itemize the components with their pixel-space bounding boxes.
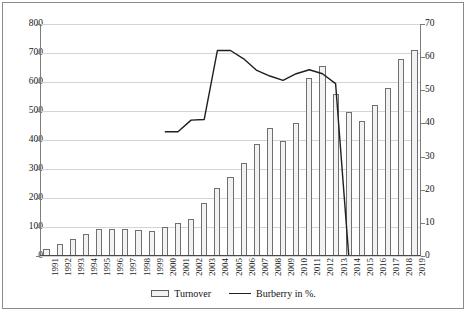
x-tick-label: 2002 <box>195 258 204 276</box>
legend-item-burberry: Burberry in %. <box>229 288 316 299</box>
x-tick-label: 2011 <box>313 258 322 276</box>
chart-legend: Turnover Burberry in %. <box>0 288 467 299</box>
x-axis-labels: 1991199219931994199519961997199819992000… <box>40 258 421 292</box>
axis-line-bottom <box>40 255 421 256</box>
y-tick-right: 50 <box>425 85 459 95</box>
x-tick-label: 1992 <box>64 258 73 276</box>
legend-label-turnover: Turnover <box>174 288 211 299</box>
y-tick-right: 10 <box>425 218 459 228</box>
y-tick-mark-right <box>421 123 425 124</box>
x-tick-label: 2005 <box>235 258 244 276</box>
x-tick-label: 1996 <box>116 258 125 276</box>
x-tick-label: 2003 <box>208 258 217 276</box>
legend-item-turnover: Turnover <box>151 288 211 299</box>
y-tick-mark-right <box>421 256 425 257</box>
y-tick-mark-right <box>421 223 425 224</box>
x-tick-label: 2008 <box>274 258 283 276</box>
x-tick-label: 2014 <box>353 258 362 276</box>
y-tick-right: 0 <box>425 251 459 261</box>
line-swatch-icon <box>229 293 251 294</box>
y-tick-right: 20 <box>425 185 459 195</box>
x-tick-label: 2009 <box>287 258 296 276</box>
line-path <box>165 51 349 256</box>
x-tick-label: 1998 <box>143 258 152 276</box>
x-tick-label: 1999 <box>156 258 165 276</box>
x-tick-label: 2017 <box>392 258 401 276</box>
x-tick-label: 2010 <box>300 258 309 276</box>
x-tick-label: 2004 <box>221 258 230 276</box>
x-tick-label: 1991 <box>51 258 60 276</box>
x-tick-label: 1994 <box>90 258 99 276</box>
y-tick-right: 70 <box>425 19 459 29</box>
y-tick-right: 30 <box>425 152 459 162</box>
x-tick-label: 2006 <box>248 258 257 276</box>
y-tick-mark-right <box>421 190 425 191</box>
y-tick-right: 60 <box>425 52 459 62</box>
y-tick-mark-right <box>421 157 425 158</box>
y-tick-mark-right <box>421 57 425 58</box>
x-tick-label: 2000 <box>169 258 178 276</box>
chart-container: 0100200300400500600700800 01020304050607… <box>0 0 467 312</box>
y-tick-right: 40 <box>425 118 459 128</box>
x-tick-label: 2018 <box>405 258 414 276</box>
y-tick-mark-right <box>421 90 425 91</box>
y-tick-mark-right <box>421 24 425 25</box>
legend-label-burberry: Burberry in %. <box>256 288 316 299</box>
x-tick-label: 2019 <box>418 258 427 276</box>
gridline <box>40 256 421 257</box>
x-tick-label: 2007 <box>261 258 270 276</box>
line-series-burberry <box>40 24 421 256</box>
x-tick-label: 2016 <box>379 258 388 276</box>
bar-swatch-icon <box>151 290 169 297</box>
x-tick-label: 2013 <box>340 258 349 276</box>
x-tick-label: 1997 <box>129 258 138 276</box>
x-tick-label: 2001 <box>182 258 191 276</box>
x-tick-label: 2015 <box>366 258 375 276</box>
plot-area <box>40 24 421 256</box>
x-tick-label: 1995 <box>103 258 112 276</box>
x-tick-label: 2012 <box>326 258 335 276</box>
x-tick-label: 1993 <box>77 258 86 276</box>
